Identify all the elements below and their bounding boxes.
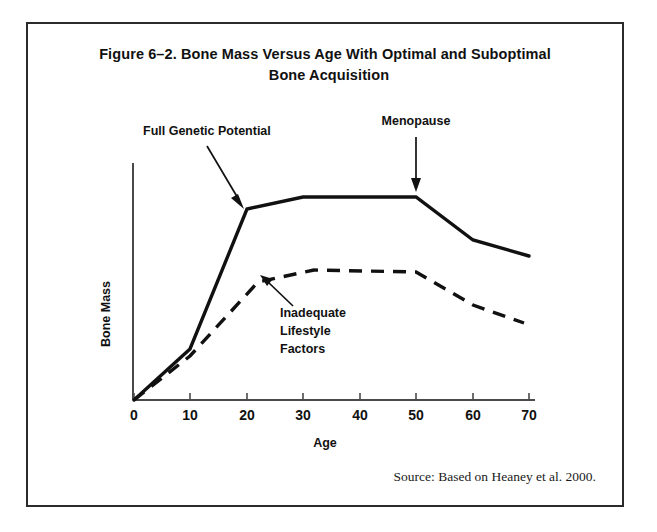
x-tick-label-40: 40 [352, 407, 368, 423]
annotation-full-genetic-potential: Full Genetic Potential [143, 124, 271, 209]
x-tick-label-50: 50 [408, 407, 424, 423]
annotation-inadequate-lifestyle-factors: Inadequate Lifestyle Factors [260, 275, 346, 356]
x-tick-label-0: 0 [130, 407, 138, 423]
annotation-menopause: Menopause [382, 114, 451, 192]
annotation-menopause-arrowhead [411, 178, 421, 192]
annotation-menopause-label: Menopause [382, 114, 451, 128]
annotation-inadequate-arrow-line [268, 282, 293, 306]
series-full-genetic-potential [134, 197, 529, 400]
annotation-full-genetic-potential-label: Full Genetic Potential [143, 124, 271, 138]
annotation-inadequate-line-1: Inadequate [280, 306, 346, 320]
x-tick-label-10: 10 [182, 407, 198, 423]
figure-frame: Figure 6–2. Bone Mass Versus Age With Op… [26, 22, 624, 507]
annotation-inadequate-line-3: Factors [280, 342, 325, 356]
chart-plot-area: 0 10 20 30 40 50 60 70 Age Bone Mass Ful… [28, 24, 626, 509]
x-axis-title: Age [313, 436, 337, 450]
x-tick-label-60: 60 [465, 407, 481, 423]
x-axis-ticks [134, 393, 529, 400]
source-note: Source: Based on Heaney et al. 2000. [394, 469, 596, 485]
x-tick-label-20: 20 [239, 407, 255, 423]
annotation-full-genetic-potential-arrow-line [207, 146, 239, 200]
y-axis-title: Bone Mass [99, 281, 113, 347]
x-tick-label-70: 70 [521, 407, 537, 423]
x-tick-label-30: 30 [295, 407, 311, 423]
x-axis-tick-labels: 0 10 20 30 40 50 60 70 [130, 407, 537, 423]
annotation-inadequate-line-2: Lifestyle [280, 324, 331, 338]
annotation-full-genetic-potential-arrowhead [231, 194, 244, 209]
